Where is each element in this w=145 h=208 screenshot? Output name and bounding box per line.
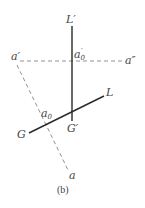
label-G-prime: G′ bbox=[67, 122, 79, 135]
figure-caption: (b) bbox=[57, 184, 69, 196]
label-a-double-prime: a″ bbox=[125, 54, 137, 67]
label-G: G bbox=[17, 128, 26, 141]
label-L-prime: L′ bbox=[65, 13, 76, 26]
label-a0-prime: a0′ bbox=[74, 47, 86, 62]
label-a-prime: a′ bbox=[11, 50, 21, 63]
label-a: a bbox=[69, 169, 76, 182]
label-L: L bbox=[105, 86, 113, 99]
label-a0: a0 bbox=[41, 107, 53, 121]
projection-diagram: L′ a′ a0′ a″ L a0 G G′ a (b) bbox=[0, 0, 145, 208]
